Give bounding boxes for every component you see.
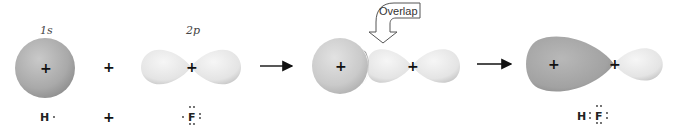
lewis-h: H	[40, 111, 55, 124]
p-orbital-lobe-right	[412, 49, 460, 82]
p-orbital-lobe-right	[614, 48, 663, 80]
lewis-f-symbol: F	[188, 111, 196, 124]
electron-dot	[53, 116, 55, 118]
label-1s: 1s	[40, 24, 53, 37]
label-2p: 2p	[185, 24, 200, 37]
h-1s-orbital: 1s +	[15, 24, 75, 98]
plus-operator: +	[103, 109, 115, 125]
p-orbital-lobe-right	[191, 50, 241, 85]
lewis-hf-f-symbol: F	[595, 110, 603, 123]
nucleus-plus-icon: +	[186, 59, 198, 75]
plus-operator: +	[103, 59, 115, 75]
nucleus-plus-icon: +	[335, 58, 347, 74]
p-orbital-lobe-left	[367, 49, 413, 82]
nucleus-plus-icon: +	[407, 58, 419, 74]
overlapping-orbitals: + +	[312, 38, 460, 94]
nucleus-plus-icon: +	[548, 56, 560, 72]
nucleus-plus-icon: +	[609, 56, 621, 72]
hf-bonding-orbital: + +	[526, 36, 663, 91]
lewis-h-symbol: H	[40, 111, 49, 124]
lewis-f: F	[182, 106, 201, 125]
p-orbital-lobe-left	[141, 50, 191, 85]
overlap-label: Overlap	[379, 5, 418, 17]
lewis-hf: H F	[577, 105, 608, 124]
bonding-lobe	[526, 36, 614, 91]
f-2p-orbital: 2p +	[141, 24, 241, 84]
overlap-callout: Overlap	[360, 3, 420, 43]
orbital-overlap-diagram: 1s + + 2p + + + Overlap + + H	[0, 0, 684, 131]
lewis-hf-h-symbol: H	[577, 110, 586, 123]
nucleus-plus-icon: +	[40, 60, 52, 76]
